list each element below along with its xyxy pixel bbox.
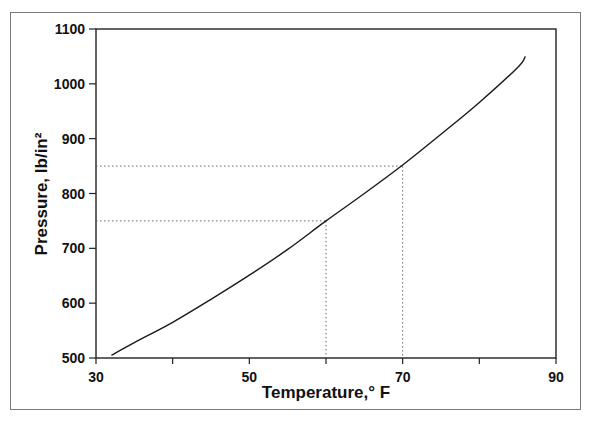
y-tick-label: 600 xyxy=(62,295,86,311)
pressure-curve xyxy=(111,56,525,355)
x-tick-label: 90 xyxy=(548,369,564,385)
reference-lines xyxy=(96,166,403,358)
x-tick-label: 50 xyxy=(242,369,258,385)
y-tick-label: 1000 xyxy=(54,76,85,92)
x-tick-label: 30 xyxy=(88,369,104,385)
y-tick-label: 500 xyxy=(62,350,86,366)
plot-area xyxy=(96,29,556,358)
y-tick-label: 900 xyxy=(62,131,86,147)
y-tick-label: 800 xyxy=(62,186,86,202)
plot-border xyxy=(96,29,556,358)
x-tick-label: 70 xyxy=(395,369,411,385)
axis-ticks: 3050709050060070080090010001100 xyxy=(54,21,564,385)
chart-svg: 3050709050060070080090010001100 Temperat… xyxy=(0,0,591,421)
y-tick-label: 700 xyxy=(62,240,86,256)
y-axis-title: Pressure, lb/in² xyxy=(32,132,51,255)
data-series xyxy=(111,56,525,355)
x-axis-title: Temperature,° F xyxy=(262,383,390,402)
y-tick-label: 1100 xyxy=(55,21,86,37)
